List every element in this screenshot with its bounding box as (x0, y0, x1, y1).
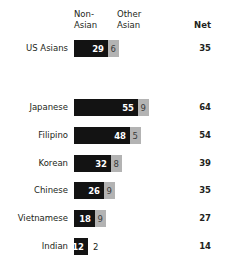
category-label: Chinese (0, 185, 68, 196)
bar-segment-other-asian: 9 (104, 182, 115, 199)
chart-row: Korean32839 (0, 155, 225, 172)
bar-segment-non-asian: 29 (74, 40, 108, 57)
chart-row: Chinese26935 (0, 182, 225, 199)
bar-segment-other-asian: 6 (108, 40, 119, 57)
category-label: Vietnamese (0, 213, 68, 224)
bar-segment-non-asian: 26 (74, 182, 104, 199)
net-value: 14 (165, 241, 211, 252)
category-label: US Asians (0, 43, 68, 54)
net-value: 35 (165, 185, 211, 196)
net-value: 35 (165, 43, 211, 54)
category-label: Indian (0, 241, 68, 252)
category-label: Filipino (0, 130, 68, 141)
bar-segment-non-asian: 18 (74, 210, 95, 227)
chart-row: US Asians29635 (0, 40, 225, 57)
bar-segment-non-asian: 55 (74, 99, 138, 116)
bar-segment-non-asian: 32 (74, 155, 111, 172)
stacked-bar: 296 (74, 40, 119, 57)
stacked-bar: 559 (74, 99, 149, 116)
stacked-bar: 328 (74, 155, 122, 172)
chart-row: Filipino48554 (0, 127, 225, 144)
column-header-non-asian: Non- Asian (74, 9, 97, 30)
net-value: 64 (165, 102, 211, 113)
category-label: Japanese (0, 102, 68, 113)
stacked-bar: 485 (74, 127, 141, 144)
category-label: Korean (0, 158, 68, 169)
chart-row: Japanese55964 (0, 99, 225, 116)
net-value: 39 (165, 158, 211, 169)
bar-segment-other-asian: 9 (138, 99, 149, 116)
net-value: 54 (165, 130, 211, 141)
chart-row: Vietnamese18927 (0, 210, 225, 227)
column-header-net: Net (165, 20, 211, 30)
bar-segment-other-asian: 5 (130, 127, 141, 144)
stacked-bar: 122 (74, 238, 108, 255)
bar-segment-other-asian: 8 (111, 155, 122, 172)
bar-segment-other-asian: 2 (88, 238, 108, 255)
chart-row: Indian12214 (0, 238, 225, 255)
stacked-bar: 189 (74, 210, 106, 227)
stacked-bar: 269 (74, 182, 115, 199)
bar-segment-non-asian: 48 (74, 127, 130, 144)
column-header-other-asian: Other Asian (117, 9, 141, 30)
bar-segment-non-asian: 12 (74, 238, 88, 255)
bar-segment-other-asian: 9 (95, 210, 106, 227)
stacked-bar-chart: Non- Asian Other Asian Net US Asians2963… (0, 0, 225, 272)
net-value: 27 (165, 213, 211, 224)
